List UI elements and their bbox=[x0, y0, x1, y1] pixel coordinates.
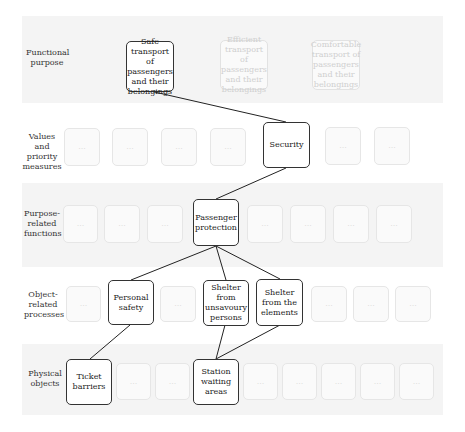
edge-protection-to-elements bbox=[216, 246, 280, 279]
node-placeholder[interactable]: ... bbox=[64, 128, 100, 166]
node-placeholder[interactable]: ... bbox=[161, 128, 197, 166]
node-placeholder[interactable]: ... bbox=[395, 286, 431, 322]
node-placeholder[interactable]: ... bbox=[155, 363, 190, 400]
edge-protection-to-unsavoury bbox=[216, 246, 226, 280]
node-placeholder[interactable]: ... bbox=[399, 363, 434, 400]
node-placeholder[interactable]: ... bbox=[353, 286, 389, 322]
node-comfortable-transport[interactable]: Comfortable transport of passengers and … bbox=[312, 40, 360, 90]
node-placeholder[interactable]: ... bbox=[104, 205, 140, 243]
node-ticket-barriers[interactable]: Ticket barriers bbox=[66, 359, 112, 405]
edge-protection-to-personal bbox=[131, 246, 216, 280]
node-shelter-unsavoury[interactable]: Shelter from unsavoury persons bbox=[203, 280, 249, 326]
node-placeholder[interactable]: ... bbox=[112, 128, 148, 166]
edge-unsavoury-to-station bbox=[216, 325, 225, 359]
node-placeholder[interactable]: ... bbox=[247, 205, 283, 243]
node-placeholder[interactable]: ... bbox=[147, 205, 183, 243]
node-placeholder[interactable]: ... bbox=[374, 127, 410, 165]
node-placeholder[interactable]: ... bbox=[360, 363, 395, 400]
node-placeholder[interactable]: ... bbox=[376, 205, 412, 243]
node-placeholder[interactable]: ... bbox=[325, 127, 361, 165]
edge-security-to-protection bbox=[216, 168, 286, 199]
node-placeholder[interactable]: ... bbox=[66, 286, 101, 322]
node-placeholder[interactable]: ... bbox=[160, 286, 196, 322]
node-passenger-protection[interactable]: Passenger protection bbox=[193, 199, 239, 246]
node-efficient-transport[interactable]: Efficient transport of passengers and th… bbox=[220, 40, 268, 90]
node-placeholder[interactable]: ... bbox=[333, 205, 369, 243]
node-placeholder[interactable]: ... bbox=[311, 286, 347, 322]
node-placeholder[interactable]: ... bbox=[243, 363, 278, 400]
edge-elements-to-station bbox=[216, 325, 280, 359]
node-station-waiting-areas[interactable]: Station waiting areas bbox=[193, 359, 239, 405]
node-security[interactable]: Security bbox=[263, 122, 310, 168]
node-personal-safety[interactable]: Personal safety bbox=[108, 280, 154, 325]
node-placeholder[interactable]: ... bbox=[321, 363, 356, 400]
node-shelter-elements[interactable]: Shelter from the elements bbox=[256, 279, 303, 326]
node-placeholder[interactable]: ... bbox=[116, 363, 151, 400]
node-placeholder[interactable]: ... bbox=[282, 363, 317, 400]
node-safe-transport[interactable]: Safe transport of passengers and their b… bbox=[126, 41, 174, 92]
edge-personal-to-ticket bbox=[90, 325, 130, 359]
node-placeholder[interactable]: ... bbox=[63, 205, 98, 243]
node-placeholder[interactable]: ... bbox=[290, 205, 326, 243]
node-placeholder[interactable]: ... bbox=[210, 128, 246, 166]
